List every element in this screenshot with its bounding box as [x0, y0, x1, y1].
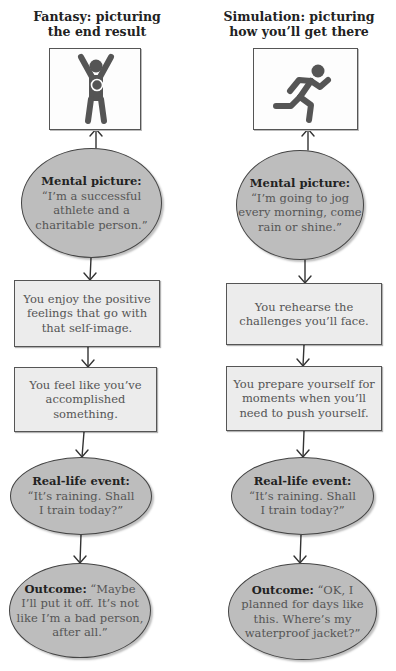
node-text: after all.” — [17, 625, 144, 640]
node-text: “I’m going to jog — [238, 191, 361, 206]
box-text: You feel like you’ve — [29, 378, 141, 393]
node-text: athlete and a — [35, 203, 147, 218]
node-label: Real-life event: — [249, 474, 356, 489]
node-label: Mental picture: — [238, 176, 361, 191]
node-text: “It’s raining. Shall — [28, 489, 135, 504]
node-text: planned for days like — [241, 597, 363, 612]
simulation-image-box — [253, 48, 358, 130]
simulation-outcome-node: Outcome: “OK, I planned for days like th… — [228, 563, 377, 660]
fantasy-real-life-event-node: Real-life event: “It’s raining. Shall I … — [10, 457, 152, 535]
node-text: like I’m a bad person, — [17, 611, 144, 626]
node-text: I train today?” — [28, 503, 135, 518]
node-text: “Maybe — [87, 582, 136, 596]
title-line: Fantasy: picturing — [22, 9, 172, 24]
box-text: You enjoy the positive — [23, 292, 150, 307]
node-label: Outcome: — [25, 582, 87, 596]
box-text: challenges you’ll face. — [239, 314, 369, 329]
node-text: I’ll put it off. It’s not — [17, 596, 144, 611]
box-text: something. — [29, 407, 141, 422]
title-line: Simulation: picturing — [218, 9, 380, 24]
title-line: the end result — [22, 24, 172, 39]
fantasy-title: Fantasy: picturing the end result — [22, 9, 172, 39]
box-text: You prepare yourself for — [233, 377, 375, 392]
node-text: every morning, come — [238, 205, 361, 220]
box-text: that self-image. — [23, 321, 150, 336]
node-text: “It’s raining. Shall — [249, 489, 356, 504]
fantasy-outcome-node: Outcome: “Maybe I’ll put it off. It’s no… — [9, 563, 151, 658]
node-label: Real-life event: — [28, 474, 135, 489]
fantasy-step-2-box: You feel like you’ve accomplished someth… — [14, 367, 157, 432]
node-text: this. Where’s my — [241, 612, 363, 627]
box-text: You rehearse the — [239, 300, 369, 315]
node-text: “I’m a successful — [35, 189, 147, 204]
fantasy-step-1-box: You enjoy the positive feelings that go … — [14, 280, 160, 347]
box-text: need to push yourself. — [233, 406, 375, 421]
box-text: feelings that go with — [23, 306, 150, 321]
node-text: I train today?” — [249, 503, 356, 518]
simulation-step-2-box: You prepare yourself for moments when yo… — [226, 366, 382, 431]
node-text: waterproof jacket?” — [241, 626, 363, 641]
fantasy-mental-picture-node: Mental picture: “I’m a successful athlet… — [21, 148, 162, 258]
node-text: rain or shine.” — [238, 220, 361, 235]
box-text: accomplished — [29, 392, 141, 407]
node-text: “OK, I — [314, 583, 353, 597]
title-line: how you’ll get there — [218, 24, 380, 39]
node-label: Mental picture: — [35, 174, 147, 189]
simulation-real-life-event-node: Real-life event: “It’s raining. Shall I … — [231, 457, 374, 535]
simulation-mental-picture-node: Mental picture: “I’m going to jog every … — [236, 150, 364, 260]
box-text: moments when you’ll — [233, 391, 375, 406]
simulation-title: Simulation: picturing how you’ll get the… — [218, 9, 380, 39]
person-arms-raised-with-medal-icon — [50, 49, 140, 129]
node-label: Outcome: — [252, 583, 314, 597]
node-text: charitable person.” — [35, 218, 147, 233]
simulation-step-1-box: You rehearse the challenges you’ll face. — [226, 283, 382, 345]
fantasy-image-box — [49, 48, 141, 130]
running-person-icon — [254, 49, 357, 129]
